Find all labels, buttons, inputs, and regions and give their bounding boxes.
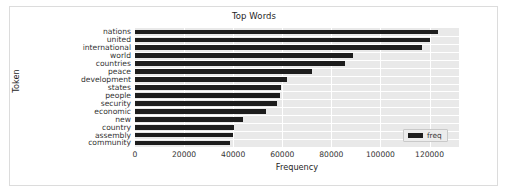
x-tick-40000: 40000 <box>221 150 245 159</box>
bar-security <box>135 101 277 106</box>
bar-new <box>135 117 243 122</box>
bar-economic <box>135 109 266 114</box>
chart-figure: Top Words Token nationsunitedinternation… <box>0 0 508 195</box>
x-tick-0: 0 <box>133 150 138 159</box>
chart-title: Top Words <box>0 11 508 21</box>
bar-nations <box>135 30 438 35</box>
bar-row <box>135 85 459 90</box>
bar-row <box>135 93 459 98</box>
bar-peace <box>135 69 312 74</box>
bar-row <box>135 69 459 74</box>
bar-countries <box>135 61 345 66</box>
bar-development <box>135 77 287 82</box>
x-tick-100000: 100000 <box>366 150 395 159</box>
x-tick-80000: 80000 <box>319 150 343 159</box>
legend: freq <box>403 129 448 142</box>
x-tick-60000: 60000 <box>270 150 294 159</box>
y-tick-community: community <box>0 139 131 147</box>
bar-people <box>135 93 280 98</box>
bar-states <box>135 85 281 90</box>
bar-row <box>135 30 459 35</box>
bar-country <box>135 125 234 130</box>
bar-row <box>135 77 459 82</box>
y-tick-economic: economic <box>0 108 131 116</box>
bar-community <box>135 141 230 146</box>
bar-row <box>135 61 459 66</box>
x-tick-120000: 120000 <box>415 150 444 159</box>
bar-row <box>135 53 459 58</box>
bar-international <box>135 45 422 50</box>
x-axis-title: Frequency <box>135 162 459 172</box>
x-tick-20000: 20000 <box>172 150 196 159</box>
legend-label-freq: freq <box>427 132 442 139</box>
bar-world <box>135 53 353 58</box>
bar-united <box>135 38 430 43</box>
bar-row <box>135 45 459 50</box>
bar-row <box>135 101 459 106</box>
y-axis-tick-labels: nationsunitedinternationalworldcountries… <box>0 28 131 147</box>
x-axis-tick-labels: 020000400006000080000100000120000 <box>0 150 508 162</box>
bar-row <box>135 109 459 114</box>
bar-row <box>135 117 459 122</box>
legend-swatch-freq <box>408 133 423 138</box>
bar-row <box>135 38 459 43</box>
bar-assembly <box>135 133 233 138</box>
